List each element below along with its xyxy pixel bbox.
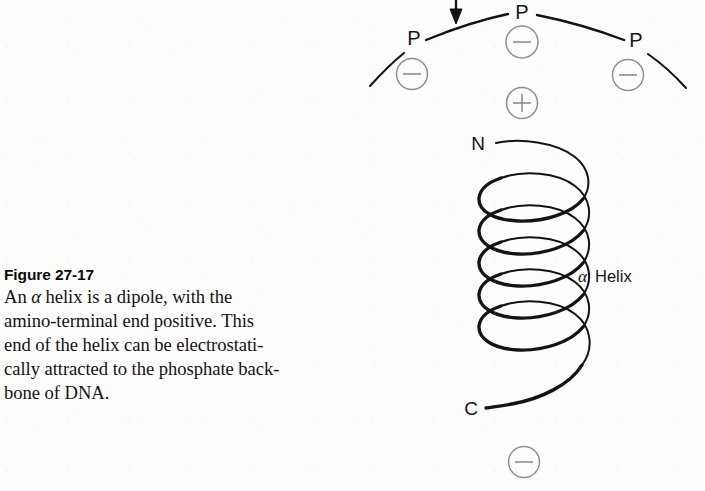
charge-negative-right [613, 60, 644, 91]
charge-negative-carboxyl-terminal [509, 447, 540, 478]
charge-negative-center [506, 26, 538, 58]
helix-c-terminus-label: C [464, 398, 478, 419]
backbone-segment-center-right [537, 15, 624, 40]
helix-turn-1-back [496, 141, 588, 199]
figure-page: Figure 27-17 An α helix is a dipole, wit… [0, 0, 705, 491]
backbone-segment-left-center [426, 14, 508, 40]
arrow-head [450, 9, 462, 24]
phosphate-label-center: P [515, 1, 528, 23]
alpha-helix-label-alpha: α [578, 266, 588, 286]
helix-n-terminus-label: N [471, 133, 485, 154]
helix-turn-6-front-to-c [486, 365, 582, 408]
attraction-arrow-icon [450, 0, 462, 24]
dna-backbone-arc [370, 14, 686, 88]
charge-negative-left [397, 59, 428, 90]
alpha-helix-label-word: Helix [595, 267, 632, 285]
backbone-segment-right-tail [648, 54, 686, 88]
phosphate-label-right: P [629, 29, 642, 51]
helix-turn-1-front [479, 178, 583, 221]
charge-positive-amino-terminal [507, 88, 538, 119]
figure-diagram: P P P [0, 0, 705, 491]
phosphate-label-left: P [407, 27, 420, 49]
alpha-helix-coil [479, 141, 590, 408]
alpha-helix-label: α Helix [578, 266, 632, 286]
